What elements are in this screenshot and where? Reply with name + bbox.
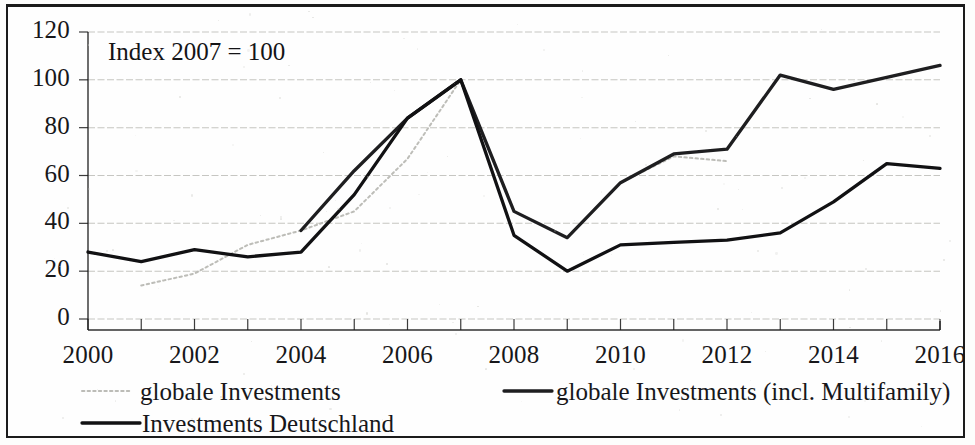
scan-speck: [668, 55, 669, 56]
scan-speck: [921, 426, 922, 427]
scan-speck: [280, 216, 282, 218]
x-axis-label: 2000: [43, 341, 133, 369]
scan-speck: [902, 116, 904, 118]
scan-speck: [251, 341, 252, 342]
x-axis-label: 2012: [682, 341, 772, 369]
scan-speck: [554, 230, 556, 232]
scan-speck: [191, 194, 193, 196]
legend-label-2: globale Investments (incl. Multifamily): [556, 378, 950, 406]
scan-speck: [179, 96, 181, 98]
x-axis-label: 2010: [576, 341, 666, 369]
legend-label-3: Investments Deutschland: [142, 410, 394, 438]
scan-speck: [88, 188, 90, 190]
y-axis-label: 100: [10, 64, 70, 92]
x-axis-label: 2016: [895, 341, 975, 369]
scan-speck: [135, 170, 137, 172]
scan-speck: [115, 400, 116, 401]
scan-speck: [949, 240, 951, 242]
scan-speck: [333, 380, 334, 381]
scan-speck: [312, 17, 314, 19]
scan-speck: [366, 312, 368, 314]
scan-speck: [389, 324, 390, 325]
scan-speck: [249, 13, 251, 15]
scan-speck: [454, 83, 455, 84]
scan-speck: [152, 47, 153, 48]
scan-speck: [943, 259, 945, 261]
y-axis-label: 80: [10, 112, 70, 140]
index-annotation: Index 2007 = 100: [108, 38, 285, 66]
scan-speck: [645, 164, 647, 166]
scan-speck: [485, 368, 487, 370]
scan-speck: [280, 218, 281, 219]
x-axis-label: 2006: [363, 341, 453, 369]
x-axis-label: 2002: [150, 341, 240, 369]
scan-speck: [220, 396, 222, 398]
scan-speck: [483, 195, 485, 197]
scan-speck: [243, 66, 245, 68]
scan-speck: [865, 268, 867, 270]
scan-speck: [929, 135, 931, 137]
scan-speck: [582, 70, 584, 72]
scan-speck: [386, 263, 388, 265]
data-series-line-2: [301, 65, 940, 237]
scan-speck: [367, 176, 369, 178]
scan-speck: [54, 258, 55, 259]
scan-speck: [848, 416, 850, 418]
y-axis-label: 120: [10, 16, 70, 44]
scan-speck: [849, 289, 850, 290]
axis-lines: [88, 32, 940, 330]
scan-speck: [521, 401, 522, 402]
y-axis-label: 60: [10, 160, 70, 188]
x-axis-ticks: [79, 32, 940, 330]
gridlines: [88, 32, 940, 319]
scan-speck: [323, 152, 324, 153]
scan-speck: [382, 419, 383, 420]
chart-figure: 020406080100120 200020022004200620082010…: [0, 0, 975, 445]
scan-speck: [137, 53, 139, 55]
scan-speck: [611, 254, 612, 255]
scan-speck: [282, 389, 284, 391]
y-axis-label: 0: [10, 303, 70, 331]
y-axis-label: 20: [10, 255, 70, 283]
scan-speck: [705, 130, 707, 132]
scan-speck: [337, 208, 339, 210]
x-axis-label: 2004: [256, 341, 346, 369]
scan-speck: [247, 49, 249, 51]
y-axis-label: 40: [10, 207, 70, 235]
scan-speck: [723, 183, 725, 185]
scan-speck: [580, 138, 581, 139]
scan-speck: [750, 380, 751, 381]
legend-label-1: globale Investments: [140, 378, 341, 406]
scan-speck: [271, 385, 272, 386]
scan-speck: [864, 400, 866, 402]
x-axis-label: 2014: [789, 341, 879, 369]
scan-speck: [288, 65, 289, 66]
scan-speck: [876, 103, 877, 104]
scan-speck: [583, 254, 584, 255]
scan-speck: [329, 408, 331, 410]
scan-speck: [328, 266, 330, 268]
x-axis-label: 2008: [469, 341, 559, 369]
scan-speck: [775, 252, 777, 254]
scan-speck: [517, 24, 518, 25]
scan-speck: [191, 418, 193, 420]
